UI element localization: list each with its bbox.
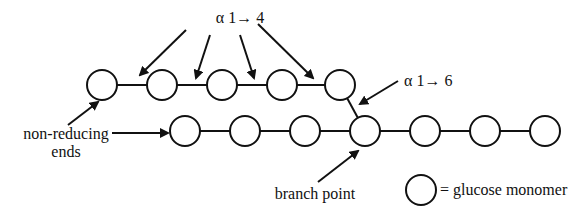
non-reducing-label: non-reducing (23, 125, 108, 143)
glucose-node (290, 116, 320, 146)
alpha14-arrow-1 (140, 30, 186, 75)
glucose-node (470, 116, 500, 146)
alpha-1-6-label: α 1→ 6 (404, 72, 452, 89)
non-reducing-arrow-top (68, 102, 98, 125)
legend-label: = glucose monomer (440, 181, 568, 199)
branch-point-label: branch point (275, 185, 356, 203)
branch-point-node (350, 116, 380, 146)
glucose-node (230, 116, 260, 146)
ends-label: ends (51, 143, 80, 160)
annotation-arrows (68, 24, 398, 182)
alpha-1-4-label: α 1→ 4 (216, 9, 264, 26)
alpha14-arrow-3 (240, 35, 254, 78)
alpha14-arrow-2 (196, 35, 210, 78)
glycogen-diagram: α 1→ 4 α 1→ 6 non-reducing ends branch p… (0, 0, 582, 217)
glucose-node (147, 70, 177, 100)
glucose-node (170, 116, 200, 146)
glucose-node (267, 70, 297, 100)
glucose-node (207, 70, 237, 100)
glucose-node (87, 70, 117, 100)
branch-point-arrow (318, 151, 358, 182)
glucose-node (325, 70, 355, 100)
legend-glucose-icon (406, 175, 436, 205)
glucose-node (410, 116, 440, 146)
alpha16-arrow (360, 81, 398, 104)
glucose-node (530, 116, 560, 146)
